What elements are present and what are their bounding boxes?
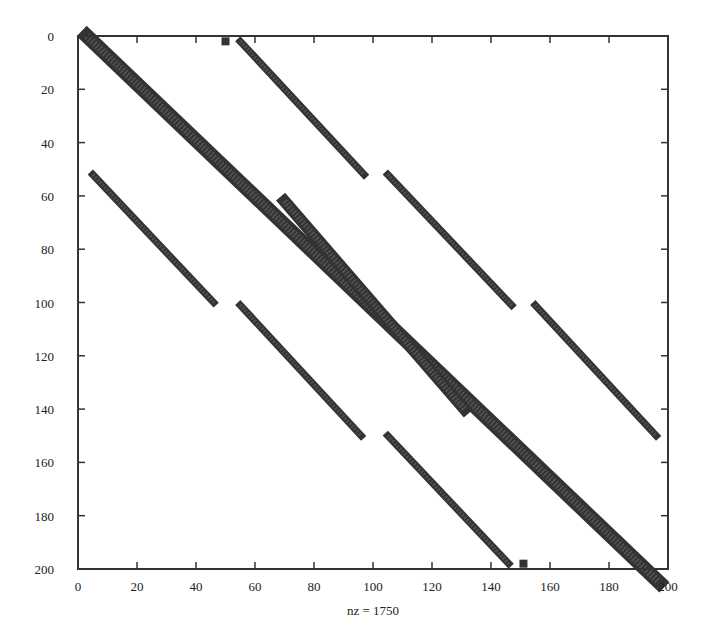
x-tick-label: 40: [190, 579, 203, 594]
x-tick-label: 0: [75, 579, 82, 594]
y-tick-label: 80: [41, 242, 54, 257]
x-tick-label: 140: [481, 579, 501, 594]
y-tick-label: 60: [41, 189, 54, 204]
x-tick-label: 200: [658, 579, 678, 594]
x-tick-label: 20: [131, 579, 144, 594]
y-tick-label: 20: [41, 82, 54, 97]
x-tick-label: 80: [308, 579, 321, 594]
x-tick-label: 100: [363, 579, 383, 594]
y-tick-label: 160: [35, 455, 55, 470]
y-tick-label: 0: [48, 29, 55, 44]
y-tick-label: 180: [35, 509, 55, 524]
x-tick-label: 60: [249, 579, 262, 594]
spy-plot: 020406080100120140160180200 020406080100…: [0, 0, 701, 636]
y-tick-label: 200: [35, 562, 55, 577]
x-axis-label: nz = 1750: [347, 603, 399, 618]
y-tick-label: 120: [35, 349, 55, 364]
nonzero-point: [222, 37, 230, 45]
x-tick-label: 180: [599, 579, 619, 594]
y-tick-label: 40: [41, 136, 54, 151]
y-tick-label: 140: [35, 402, 55, 417]
y-tick-label: 100: [35, 296, 55, 311]
nonzero-bands: [87, 36, 659, 582]
x-tick-label: 120: [422, 579, 442, 594]
x-tick-label: 160: [540, 579, 560, 594]
nonzero-point: [519, 560, 527, 568]
